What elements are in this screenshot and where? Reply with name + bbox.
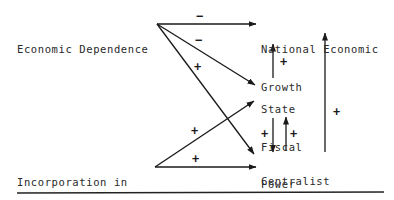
- sign-regime-to-fiscal: +: [290, 128, 297, 140]
- arrow-ed-to-regime: [157, 24, 254, 154]
- node-label-line-1: Centralist: [261, 175, 330, 188]
- sign-fiscal-to-regime: +: [261, 128, 268, 140]
- node-label: Economic Dependence: [17, 43, 149, 56]
- causal-diagram: Economic Dependence Incorporation in the…: [0, 0, 394, 200]
- sign-fiscal-to-growth: +: [280, 56, 287, 68]
- node-label-line-1: National Economic: [261, 43, 379, 56]
- sign-ed-to-fiscal: −: [195, 34, 202, 46]
- sign-regime-to-growth: +: [333, 106, 340, 118]
- sign-iwpe-to-fiscal: +: [191, 125, 198, 137]
- node-incorporation-world-political-economy: Incorporation in the World Political Eco…: [17, 151, 149, 200]
- sign-iwpe-to-regime: +: [192, 153, 199, 165]
- node-label-line-1: Incorporation in: [17, 176, 149, 189]
- sign-ed-to-regime: +: [194, 61, 201, 73]
- node-label-line-1: State: [261, 103, 303, 116]
- arrow-ed-to-fiscal: [157, 24, 255, 85]
- node-economic-dependence: Economic Dependence: [17, 18, 149, 81]
- sign-ed-to-growth: −: [196, 10, 203, 22]
- node-centralist-regime: Centralist Regime: [261, 150, 330, 200]
